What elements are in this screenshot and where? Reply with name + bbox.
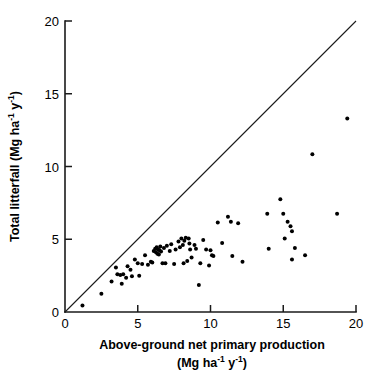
data-point [172, 262, 176, 266]
data-points-group [80, 116, 349, 307]
data-point [182, 261, 186, 265]
y-ticklabel-15: 15 [45, 87, 59, 102]
scatter-plot-figure: 20 15 10 5 0 0 5 10 15 20 Total litterfa… [0, 0, 379, 381]
data-point [140, 262, 144, 266]
plot-canvas: 20 15 10 5 0 0 5 10 15 20 Total litterfa… [0, 0, 379, 381]
data-point [185, 259, 189, 263]
x-axis-title-units-mid: y [225, 356, 235, 370]
data-point [236, 221, 240, 225]
data-point [126, 264, 130, 268]
data-point [187, 237, 191, 241]
data-point [187, 242, 191, 246]
x-ticklabel-0: 0 [61, 316, 68, 331]
data-point [278, 197, 282, 201]
x-axis-title-line1: Above-ground net primary production [99, 338, 325, 352]
data-point [289, 224, 293, 228]
data-point [204, 247, 208, 251]
data-point [110, 279, 114, 283]
data-point [197, 283, 201, 287]
x-ticklabel-20: 20 [349, 316, 363, 331]
data-point [99, 292, 103, 296]
data-point [121, 272, 125, 276]
x-axis-title: Above-ground net primary production (Mg … [99, 338, 325, 370]
svg-text:Total litterfall (Mg ha-1 y-1): Total litterfall (Mg ha-1 y-1) [6, 91, 22, 242]
data-point [165, 244, 169, 248]
y-ticklabel-5: 5 [52, 232, 59, 247]
y-axis-ticks [65, 21, 72, 239]
y-ticklabel-20: 20 [45, 14, 59, 29]
data-point [290, 258, 294, 262]
data-point [80, 303, 84, 307]
data-point [335, 212, 339, 216]
data-point [209, 248, 213, 252]
data-point [201, 238, 205, 242]
x-axis-title-units-prefix: (Mg ha [177, 356, 218, 370]
data-point [190, 255, 194, 259]
y-ticklabel-0: 0 [52, 305, 59, 320]
data-point [345, 116, 349, 120]
data-point [265, 212, 269, 216]
data-point [136, 261, 140, 265]
data-point [230, 254, 234, 258]
y-axis-title-mid: y [8, 103, 22, 113]
data-point [303, 253, 307, 257]
data-point [146, 263, 150, 267]
data-point [150, 261, 154, 265]
x-axis-tick-labels: 0 5 10 15 20 [61, 316, 363, 331]
y-axis-title-suffix: ) [8, 91, 22, 95]
data-point [211, 254, 215, 258]
data-point [159, 250, 163, 254]
data-point [283, 237, 287, 241]
y-axis-tick-labels: 20 15 10 5 0 [45, 14, 59, 320]
data-point [220, 241, 224, 245]
data-point [176, 239, 180, 243]
data-point [229, 220, 233, 224]
data-point [114, 266, 118, 270]
one-to-one-reference-line [65, 21, 356, 312]
data-point [198, 261, 202, 265]
data-point [143, 253, 147, 257]
data-point [128, 268, 132, 272]
data-point [241, 260, 245, 264]
data-point [130, 274, 134, 278]
data-point [174, 247, 178, 251]
data-point [226, 215, 230, 219]
data-point [310, 152, 314, 156]
x-ticklabel-10: 10 [203, 316, 217, 331]
x-ticklabel-5: 5 [134, 316, 141, 331]
svg-text:(Mg ha-1 y-1): (Mg ha-1 y-1) [177, 354, 247, 370]
data-point [194, 247, 198, 251]
x-axis-ticks [138, 305, 356, 312]
data-point [286, 220, 290, 224]
data-point [293, 246, 297, 250]
x-axis-title-units-suffix: ) [243, 356, 247, 370]
data-point [267, 247, 271, 251]
data-point [193, 243, 197, 247]
data-point [188, 247, 192, 251]
data-point [124, 276, 128, 280]
data-point [216, 221, 220, 225]
y-axis-title: Total litterfall (Mg ha-1 y-1) [6, 91, 22, 242]
data-point [169, 242, 173, 246]
x-ticklabel-15: 15 [276, 316, 290, 331]
data-point [158, 245, 162, 249]
y-ticklabel-10: 10 [45, 160, 59, 175]
data-point [168, 249, 172, 253]
data-point [181, 243, 185, 247]
y-axis-title-prefix: Total litterfall (Mg ha [8, 120, 22, 242]
data-point [281, 212, 285, 216]
data-point [120, 282, 124, 286]
data-point [163, 261, 167, 265]
data-point [133, 258, 137, 262]
data-point [290, 229, 294, 233]
data-point [137, 274, 141, 278]
data-point [207, 263, 211, 267]
